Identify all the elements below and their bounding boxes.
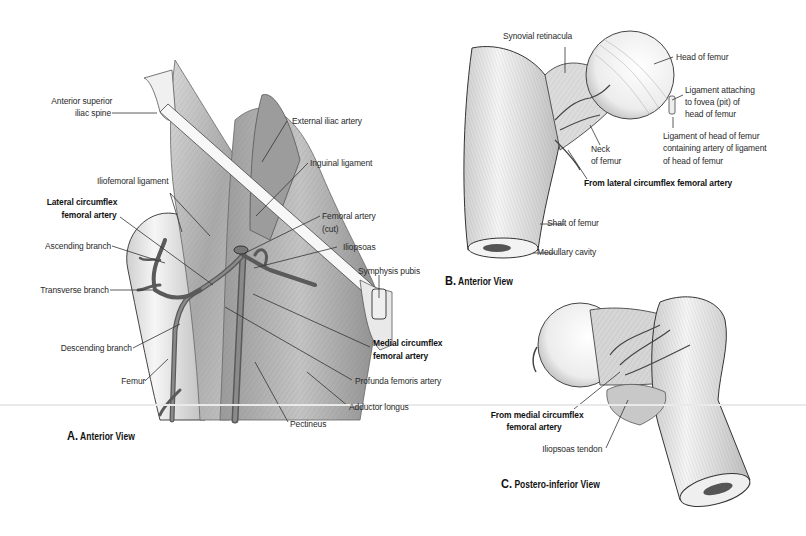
label-ascending-branch: Ascending branch — [45, 240, 111, 252]
caption-panel-c-letter: C. — [501, 476, 512, 491]
label-femoral-artery-line1: Femoral artery — [322, 210, 376, 222]
label-external-iliac-artery: External iliac artery — [292, 115, 362, 127]
caption-panel-a-text: Anterior View — [80, 431, 135, 442]
label-asis-line2: iliac spine — [75, 107, 111, 119]
label-symphysis-pubis: Symphysis pubis — [358, 265, 420, 277]
label-neck-line1: Neck — [591, 143, 610, 155]
caption-panel-a: A. Anterior View — [67, 428, 135, 443]
label-iliofemoral-ligament: Iliofemoral ligament — [97, 175, 168, 187]
label-pectineus: Pectineus — [290, 418, 326, 430]
label-from-lateral-circumflex: From lateral circumflex femoral artery — [584, 177, 732, 189]
caption-panel-c: C. Postero-inferior View — [501, 476, 600, 491]
caption-panel-a-letter: A. — [67, 428, 78, 443]
caption-panel-c-text: Postero-inferior View — [514, 479, 599, 490]
label-femur: Femur — [121, 375, 145, 387]
label-from-medial-circumflex-line2: femoral artery — [507, 421, 562, 433]
label-ligament-head-line1: Ligament of head of femur — [663, 130, 759, 142]
label-fovea-line3: head of femur — [685, 108, 736, 120]
label-adductor-longus: Adductor longus — [349, 401, 409, 413]
label-neck-line2: of femur — [591, 155, 621, 167]
label-femoral-artery-line2: (cut) — [322, 223, 338, 235]
caption-panel-b-letter: B. — [445, 273, 456, 288]
label-shaft-of-femur: Shaft of femur — [547, 217, 599, 229]
label-medial-circumflex-line2: femoral artery — [373, 350, 428, 362]
label-lateral-circumflex-line2: femoral artery — [62, 209, 117, 221]
label-iliopsoas-tendon: Iliopsoas tendon — [542, 443, 602, 455]
label-iliopsoas: Iliopsoas — [343, 241, 376, 253]
label-descending-branch: Descending branch — [61, 342, 132, 354]
label-medial-circumflex-line1: Medial circumflex — [373, 337, 442, 349]
label-profunda-femoris-artery: Profunda femoris artery — [355, 375, 441, 387]
label-inguinal-ligament: Inguinal ligament — [310, 157, 372, 169]
label-fovea-line2: to fovea (pit) of — [685, 96, 740, 108]
label-transverse-branch: Transverse branch — [40, 284, 109, 296]
label-lateral-circumflex-line1: Lateral circumflex — [46, 196, 117, 208]
label-ligament-head-line3: of head of femur — [663, 155, 723, 167]
caption-panel-b-text: Anterior View — [458, 276, 513, 287]
label-fovea-line1: Ligament attaching — [685, 84, 755, 96]
label-synovial-retinacula: Synovial retinacula — [503, 30, 572, 42]
label-head-of-femur: Head of femur — [676, 51, 728, 63]
label-medullary-cavity: Medullary cavity — [537, 246, 596, 258]
label-from-medial-circumflex-line1: From medial circumflex — [491, 409, 584, 421]
label-ligament-head-line2: containing artery of ligament — [663, 142, 767, 154]
label-asis-line1: Anterior superior — [51, 95, 112, 107]
caption-panel-b: B. Anterior View — [445, 273, 513, 288]
